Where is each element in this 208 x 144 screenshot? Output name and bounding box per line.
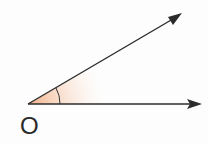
vertex-label: O: [20, 114, 39, 138]
angle-diagram: O: [0, 0, 208, 144]
upper-arrowhead-icon: [168, 13, 182, 25]
